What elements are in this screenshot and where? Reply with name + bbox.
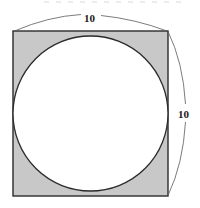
top-dimension-arc-left (15, 15, 82, 32)
geometry-figure: 10 10 (0, 0, 200, 208)
top-dimension-label: 10 (84, 13, 95, 24)
inscribed-circle (13, 36, 168, 191)
top-dimension-arc-right (101, 16, 167, 32)
figure-canvas (0, 0, 200, 208)
right-dimension-arc-top (168, 32, 186, 105)
right-dimension-arc-bottom (168, 122, 186, 196)
right-dimension-label: 10 (178, 109, 189, 120)
